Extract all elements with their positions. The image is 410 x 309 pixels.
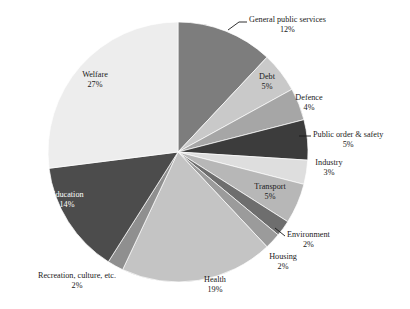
pie-slice-welfare [48, 22, 178, 168]
slice-label-recreation-value: 2% [14, 281, 140, 291]
slice-label-public-order-safety-value: 5% [313, 140, 383, 150]
slice-label-public-order-safety-name: Public order & safety [313, 130, 383, 140]
slice-label-recreation-name: Recreation, culture, etc. [14, 271, 140, 281]
slice-label-education-name: Education [34, 190, 100, 200]
slice-label-housing-value: 2% [258, 262, 308, 272]
slice-label-housing: Housing 2% [258, 252, 308, 271]
slice-label-welfare-value: 27% [65, 80, 125, 90]
slice-label-health: Health 19% [192, 275, 238, 294]
slice-label-debt: Debt 5% [247, 72, 287, 91]
slice-label-health-name: Health [192, 275, 238, 285]
slice-label-recreation: Recreation, culture, etc. 2% [14, 271, 140, 290]
slice-label-defence-value: 4% [285, 103, 333, 113]
slice-label-welfare-name: Welfare [65, 70, 125, 80]
slice-label-welfare: Welfare 27% [65, 70, 125, 89]
slice-label-housing-name: Housing [258, 252, 308, 262]
slice-label-public-order-safety: Public order & safety 5% [313, 130, 383, 149]
slice-label-general-public-services-value: 12% [249, 25, 326, 35]
slice-label-environment-name: Environment [287, 230, 330, 240]
slice-label-industry: Industry 3% [305, 158, 353, 177]
slice-label-debt-value: 5% [247, 82, 287, 92]
slice-label-health-value: 19% [192, 285, 238, 295]
slice-label-general-public-services: General public services 12% [249, 15, 326, 34]
pie-chart: General public services 12% Debt 5% Defe… [0, 0, 410, 309]
slice-label-environment: Environment 2% [287, 230, 330, 249]
pie-slice-group [48, 22, 308, 282]
slice-label-transport-value: 5% [243, 192, 297, 202]
leader-line-general-public-services [228, 22, 247, 30]
slice-label-education-value: 14% [34, 200, 100, 210]
slice-label-debt-name: Debt [247, 72, 287, 82]
slice-label-defence-name: Defence [285, 93, 333, 103]
slice-label-industry-value: 3% [305, 168, 353, 178]
slice-label-education: Education 14% [34, 190, 100, 209]
slice-label-defence: Defence 4% [285, 93, 333, 112]
slice-label-transport-name: Transport [243, 182, 297, 192]
slice-label-transport: Transport 5% [243, 182, 297, 201]
slice-label-industry-name: Industry [305, 158, 353, 168]
slice-label-environment-value: 2% [287, 240, 330, 250]
pie-chart-canvas [0, 0, 410, 309]
slice-label-general-public-services-name: General public services [249, 15, 326, 25]
